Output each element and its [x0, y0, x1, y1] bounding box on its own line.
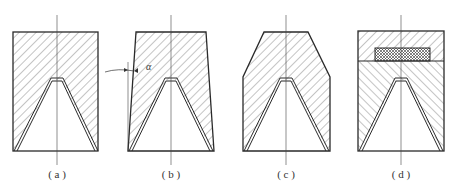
- panel-c: [243, 15, 330, 165]
- caption-d: ( d ): [381, 168, 421, 180]
- panel-a: [13, 15, 98, 165]
- panel-d: [358, 15, 444, 165]
- caption-a: ( a ): [37, 168, 77, 180]
- alpha-label: α: [146, 61, 152, 72]
- panel-b: [105, 15, 214, 165]
- diagram-canvas: α: [0, 0, 455, 195]
- caption-b: ( b ): [151, 168, 191, 180]
- caption-c: ( c ): [266, 168, 306, 180]
